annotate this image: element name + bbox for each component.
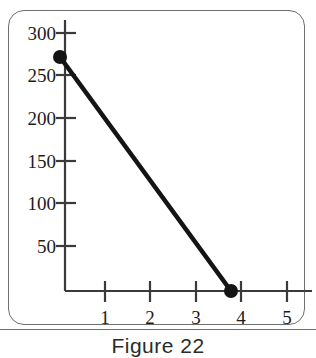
x-tick-label-2: 2 bbox=[138, 308, 162, 327]
y-tick-label-150: 150 bbox=[10, 152, 56, 171]
y-tick-label-100: 100 bbox=[10, 194, 56, 213]
data-point-left bbox=[53, 50, 67, 64]
x-tick-label-5: 5 bbox=[275, 308, 299, 327]
y-tick-label-300: 300 bbox=[10, 24, 56, 43]
data-line-segment bbox=[60, 57, 231, 291]
y-tick-label-50: 50 bbox=[10, 237, 56, 256]
x-tick-label-3: 3 bbox=[184, 308, 208, 327]
figure-caption: Figure 22 bbox=[0, 334, 316, 358]
x-tick-label-1: 1 bbox=[93, 308, 117, 327]
x-tick-label-4: 4 bbox=[229, 308, 253, 327]
data-point-right bbox=[224, 284, 238, 298]
caption-divider bbox=[0, 329, 316, 330]
y-tick-label-250: 250 bbox=[10, 66, 56, 85]
y-tick-label-200: 200 bbox=[10, 109, 56, 128]
